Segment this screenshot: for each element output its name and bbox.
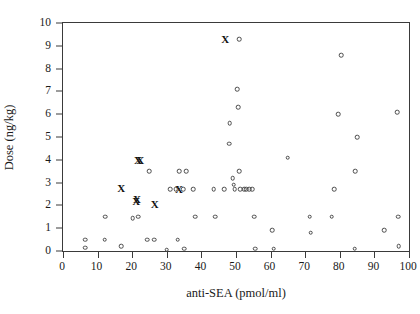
data-point-circle [308,230,313,235]
data-point-circle [152,237,157,242]
data-point-circle [271,246,276,251]
data-point-circle [181,187,186,192]
data-point-circle [237,37,242,42]
x-axis-tick-label: 40 [195,260,207,272]
data-point-circle [222,187,227,192]
data-point-circle [235,87,240,92]
x-axis-tick-label: 0 [59,260,65,272]
x-axis-tick [132,251,133,258]
data-point-cross: X [132,193,143,204]
data-point-circle [232,187,237,192]
data-point-circle [382,228,387,233]
x-axis-tick-label: 80 [333,260,345,272]
y-axis-tick-label: 10 [40,16,52,28]
data-point-circle [168,187,173,192]
data-point-circle [332,187,337,192]
x-axis-tick-label: 100 [399,260,416,272]
y-axis-tick [56,45,63,46]
data-point-circle [336,112,341,117]
data-point-circle [244,187,249,192]
y-axis-tick-label: 8 [45,62,51,74]
data-point-circle [355,135,360,140]
x-axis-tick [63,251,64,258]
x-axis-tick-label: 60 [264,260,276,272]
y-axis-tick-label: 2 [45,198,51,210]
y-axis-tick [56,137,63,138]
y-axis-tick [56,228,63,229]
y-axis-tick-label: 6 [45,107,51,119]
data-point-circle [237,169,242,174]
scatter-plot-figure: Dose (ng/kg) XXXXXXXX anti-SEA (pmol/ml)… [0,0,420,314]
x-axis-tick-label: 30 [160,260,172,272]
data-point-circle [145,237,150,242]
x-axis-tick [236,251,237,258]
x-axis-tick-label: 10 [91,260,103,272]
x-axis-tick-label: 70 [298,260,310,272]
data-point-cross: X [173,184,184,195]
x-axis-tick [271,251,272,258]
x-axis-tick [201,251,202,258]
data-point-circle [270,228,275,233]
data-point-circle [176,237,181,242]
x-axis-tick-label: 90 [368,260,380,272]
data-point-circle [227,121,232,126]
data-point-circle [250,187,255,192]
data-point-circle [177,169,182,174]
y-axis-tick [56,159,63,160]
data-point-circle [191,187,196,192]
data-point-circle [238,187,243,192]
data-point-circle [396,215,401,220]
data-point-circle [353,169,358,174]
data-point-circle [131,216,136,221]
data-point-circle [236,105,241,110]
data-point-circle [231,183,236,188]
data-point-circle [227,142,232,147]
data-point-circle [307,215,312,220]
data-point-circle [83,237,88,242]
y-axis-tick-label: 3 [45,176,51,188]
data-point-circle [212,187,217,192]
data-point-circle [395,110,400,115]
data-point-circle [253,246,258,251]
data-point-circle [285,155,290,160]
x-axis-tick [374,251,375,258]
data-point-circle [83,245,88,250]
x-axis-tick [167,251,168,258]
data-point-circle [352,246,357,251]
y-axis-tick [56,91,63,92]
x-axis-tick-label: 50 [229,260,241,272]
data-point-cross: X [149,199,160,210]
data-point-circle [247,187,252,192]
y-axis-tick [56,205,63,206]
data-point-cross: X [116,183,127,194]
data-point-cross: X [131,195,142,206]
data-point-circle [396,244,401,249]
y-axis-tick [56,23,63,24]
x-axis-tick [98,251,99,258]
data-point-circle [330,215,335,220]
plot-area: XXXXXXXX [62,22,410,252]
y-axis-label: Dose (ng/kg) [2,22,18,252]
data-point-circle [102,237,107,242]
y-axis-label-text: Dose (ng/kg) [3,104,18,170]
y-axis-tick [56,182,63,183]
x-axis-tick-label: 20 [125,260,137,272]
x-axis-tick [305,251,306,258]
x-axis-tick [340,251,341,258]
data-point-circle [193,215,198,220]
data-point-circle [119,244,124,249]
y-axis-tick-label: 5 [45,130,51,142]
y-axis-tick-label: 1 [45,221,51,233]
x-axis-label: anti-SEA (pmol/ml) [62,286,410,301]
data-point-circle [103,215,108,220]
data-point-circle [230,176,235,181]
data-point-circle [242,187,247,192]
data-point-circle [136,215,141,220]
data-point-circle [252,215,257,220]
y-axis-tick [56,68,63,69]
data-point-circle [184,169,189,174]
y-axis-tick [56,251,63,252]
data-point-cross: X [133,154,144,165]
data-point-circle [173,187,178,192]
data-point-circle [182,246,187,251]
